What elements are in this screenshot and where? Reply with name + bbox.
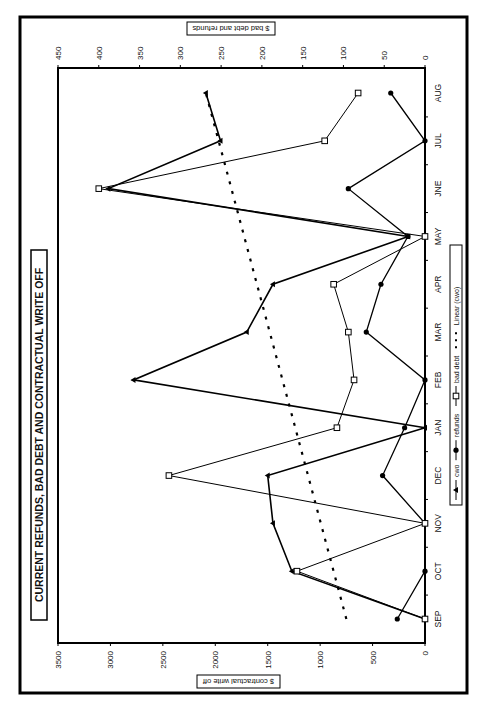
right-axis-tick-label: 450 [54, 46, 63, 60]
right-axis-tick-label: 50 [380, 51, 389, 60]
right-axis-tick-label: 150 [299, 46, 308, 60]
chart-title-box: CURRENT REFUNDS, BAD DEBT AND CONTRACTUA… [31, 250, 47, 620]
right-axis-tick-label: 100 [339, 46, 348, 60]
right-axis-tick-label: 250 [217, 46, 226, 60]
left-axis-title-box: $ contractual write off [197, 675, 280, 688]
legend-item: bad debt [453, 356, 460, 406]
left-axis-tick-label: 1500 [264, 650, 273, 668]
svg-text:refunds: refunds [453, 413, 460, 437]
right-axis-tick-label: 200 [258, 46, 267, 60]
month-label: SEP [433, 610, 443, 627]
right-axis-tick-label: 350 [136, 46, 145, 60]
svg-text:bad debt: bad debt [453, 356, 460, 383]
x-axis-month-labels: SEPOCTNOVDECJANFEBMARAPRMAYJNEJULAUG [425, 84, 443, 628]
left-axis-tick-label: 0 [421, 650, 430, 655]
svg-text:cwo: cwo [453, 464, 460, 477]
left-axis-tick-label: 2000 [211, 650, 220, 668]
left-axis-tick-label: 3500 [54, 650, 63, 668]
month-label: JUL [433, 133, 443, 148]
left-axis-tick-label: 2500 [159, 650, 168, 668]
left-axis-tick-label: 500 [369, 650, 378, 664]
month-label: DEC [433, 467, 443, 485]
month-label: JNE [433, 180, 443, 196]
plot-area [58, 68, 425, 643]
right-axis-ticks: 050100150200250300350400450 [54, 46, 430, 68]
chart-title-text: CURRENT REFUNDS, BAD DEBT AND CONTRACTUA… [33, 267, 45, 602]
month-label: OCT [433, 562, 443, 580]
left-axis-tick-label: 3000 [106, 650, 115, 668]
left-axis-ticks: 0500100015002000250030003500 [54, 643, 430, 669]
month-label: AUG [433, 84, 443, 102]
month-label: MAR [433, 323, 443, 342]
chart-canvas: 0500100015002000250030003500 05010015020… [0, 0, 487, 707]
month-label: NOV [433, 514, 443, 533]
left-axis-tick-label: 1000 [316, 650, 325, 668]
month-label: JAN [433, 420, 443, 436]
right-axis-tick-label: 400 [95, 46, 104, 60]
left-axis-title: $ contractual write off [202, 677, 274, 686]
month-label: APR [433, 276, 443, 293]
chart-figure: CURRENT REFUNDS, BAD DEBT AND CONTRACTUA… [0, 0, 487, 707]
month-label: FEB [433, 371, 443, 388]
right-axis-tick-label: 300 [176, 46, 185, 60]
right-axis-title: $ bad debt and refunds [192, 24, 269, 33]
svg-text:Linear (cwo): Linear (cwo) [453, 287, 461, 326]
right-axis-tick-label: 0 [421, 55, 430, 60]
legend: cworefundsbad debtLinear (cwo) [450, 245, 462, 505]
right-axis-title-box: $ bad debt and refunds [187, 22, 275, 35]
month-label: MAY [433, 227, 443, 245]
